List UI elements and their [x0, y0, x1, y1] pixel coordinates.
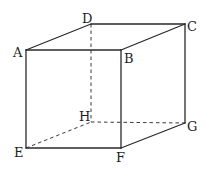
edge-HG — [91, 122, 185, 123]
vertex-label-e: E — [14, 145, 24, 160]
vertex-label-a: A — [12, 45, 23, 60]
vertex-label-h: H — [79, 109, 90, 124]
vertex-label-c: C — [187, 19, 197, 34]
edge-BC — [121, 24, 185, 50]
vertex-label-g: G — [187, 119, 197, 134]
edge-FG — [121, 123, 185, 148]
vertex-label-b: B — [124, 51, 134, 66]
cube-diagram: A B C D E F G H — [0, 0, 207, 174]
vertex-label-f: F — [116, 150, 125, 165]
edge-DA — [26, 24, 91, 50]
edge-EH — [26, 122, 91, 148]
vertex-label-d: D — [82, 11, 92, 26]
